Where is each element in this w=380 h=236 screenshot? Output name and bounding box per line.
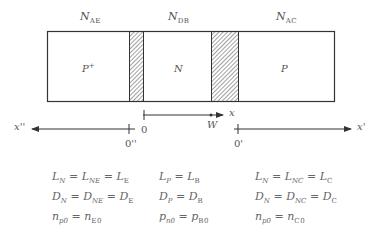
emitter-equations: LN = LNE = LE DN = DNE = DE np0 = nE0 [52, 169, 134, 229]
base-equations: LP = LB DP = DB pn0 = pB0 [159, 169, 209, 229]
emitter-axis-origin: 0'' [125, 138, 137, 149]
base-axis-origin: 0 [141, 124, 147, 135]
base-doping-label: NDB [168, 10, 189, 25]
collector-region-label: P [281, 63, 288, 74]
collector-axis-label: x' [357, 121, 365, 132]
collector-doping-label: NAC [276, 10, 297, 25]
base-axis-label: x [229, 107, 235, 118]
base-collector-depletion [212, 32, 239, 102]
collector-equations: LN = LNC = LC DN = DNC = DC np0 = nC0 [255, 169, 337, 229]
emitter-axis-label: x'' [14, 121, 25, 132]
emitter-doping-label: NAE [80, 10, 101, 25]
base-region-label: N [174, 63, 183, 74]
emitter-base-depletion [130, 32, 144, 102]
emitter-region-label: P+ [82, 62, 95, 74]
collector-axis-origin: 0' [234, 138, 243, 149]
base-width-label: W [207, 119, 217, 130]
